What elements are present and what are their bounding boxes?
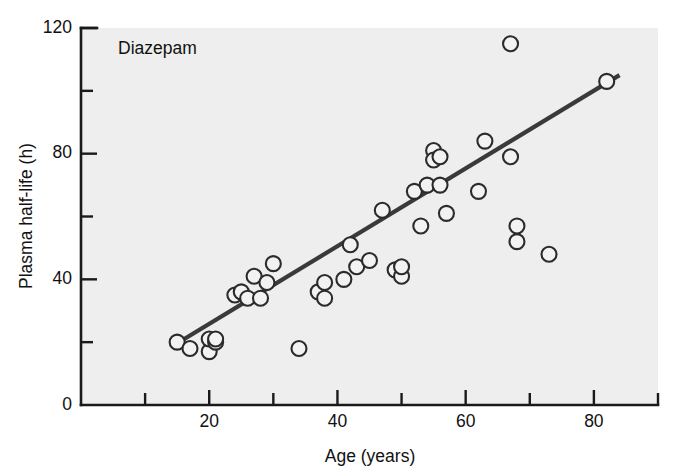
data-point xyxy=(208,332,223,347)
data-point xyxy=(413,218,428,233)
y-tick-label: 120 xyxy=(43,17,72,37)
data-point xyxy=(503,149,518,164)
data-point xyxy=(542,247,557,262)
y-axis-title: Plasma half-life (h) xyxy=(16,143,36,289)
plot-panel-background xyxy=(81,28,658,405)
scatter-plot: 04080120 20406080 Plasma half-life (h) A… xyxy=(0,0,678,476)
data-point xyxy=(375,203,390,218)
data-point xyxy=(362,253,377,268)
data-point xyxy=(477,134,492,149)
data-point xyxy=(433,178,448,193)
y-tick-label: 80 xyxy=(53,142,73,162)
data-point xyxy=(253,291,268,306)
series-annotation-label: Diazepam xyxy=(118,38,197,58)
x-axis-title: Age (years) xyxy=(325,446,415,466)
data-point xyxy=(509,218,524,233)
data-point xyxy=(259,275,274,290)
x-tick-label: 60 xyxy=(456,411,476,431)
data-point xyxy=(336,272,351,287)
data-point xyxy=(317,291,332,306)
y-tick-label: 40 xyxy=(53,268,73,288)
x-tick-label: 20 xyxy=(199,411,219,431)
data-point xyxy=(182,341,197,356)
data-point xyxy=(509,234,524,249)
data-point xyxy=(599,74,614,89)
data-point xyxy=(439,206,454,221)
y-tick-label: 0 xyxy=(62,394,72,414)
data-point xyxy=(503,36,518,51)
x-tick-label: 40 xyxy=(328,411,348,431)
x-tick-label: 80 xyxy=(584,411,604,431)
data-point xyxy=(266,256,281,271)
data-point xyxy=(471,184,486,199)
data-point xyxy=(433,149,448,164)
data-point xyxy=(317,275,332,290)
data-point xyxy=(394,259,409,274)
chart-figure: 04080120 20406080 Plasma half-life (h) A… xyxy=(0,0,678,476)
data-point xyxy=(291,341,306,356)
data-point xyxy=(343,237,358,252)
